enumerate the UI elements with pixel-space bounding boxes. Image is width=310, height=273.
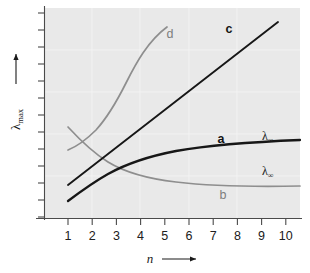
lambda-max-vs-n-chart: λmax 1 2 3 4 [0,0,310,273]
x-tick-label: 7 [210,229,217,243]
y-axis-arrow-head [13,54,18,60]
x-axis: 1 2 3 4 5 6 7 8 9 10 [36,219,302,244]
x-axis-title: n [147,251,154,266]
x-tick-label: 6 [186,229,193,243]
x-tick-label: 8 [234,229,241,243]
y-axis-title-group: λmax [8,54,25,130]
x-tick-label: 9 [258,229,265,243]
x-tick-label: 10 [279,229,293,243]
curve-label-a: a [218,132,226,146]
x-tick-label: 5 [161,229,168,243]
x-axis-arrow-head [190,256,196,261]
y-axis-title: λmax [8,108,25,130]
x-tick-label: 4 [137,229,144,243]
curve-label-d: d [167,27,174,41]
x-axis-title-group: n [147,251,196,266]
curve-label-c: c [226,22,233,36]
x-tick-label: 1 [65,229,72,243]
y-axis [38,6,45,220]
x-axis-ticks [68,219,286,226]
x-axis-tick-labels: 1 2 3 4 5 6 7 8 9 10 [65,229,293,243]
x-tick-label: 2 [89,229,96,243]
x-tick-label: 3 [113,229,120,243]
y-axis-ticks [38,13,45,217]
figure-container: λmax 1 2 3 4 [0,0,310,273]
curve-label-b: b [220,188,227,202]
